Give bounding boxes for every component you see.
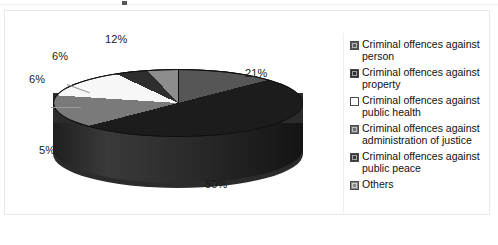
- legend-swatch-icon: [350, 69, 359, 78]
- legend-swatch-icon: [350, 181, 359, 190]
- legend-item-label: Criminal offences against public peace: [362, 151, 493, 174]
- legend-swatch-icon: [350, 97, 359, 106]
- pie-label-person: 21%: [245, 67, 267, 79]
- pie-label-public-health: 6%: [29, 73, 45, 85]
- legend-item-public-health: Criminal offences against public health: [350, 95, 493, 118]
- pie-label-public-peace: 6%: [52, 50, 68, 62]
- legend-item-label: Criminal offences against public health: [362, 95, 493, 118]
- leader-line-public-health: [51, 107, 81, 108]
- legend-swatch-icon: [350, 41, 359, 50]
- legend-item-public-peace: Criminal offences against public peace: [350, 151, 493, 174]
- legend-item-administration-of-justice: Criminal offences against administration…: [350, 123, 493, 146]
- legend-item-label: Criminal offences against administration…: [362, 123, 493, 146]
- pie-chart-figure: 12% 6% 6% 5% 50% 21% Criminal offences a…: [0, 0, 498, 245]
- legend-swatch-icon: [350, 125, 359, 134]
- pie-3d: [53, 69, 303, 179]
- chart-legend: Criminal offences against person Crimina…: [343, 33, 493, 213]
- legend-item-label: Criminal offences against property: [362, 67, 493, 90]
- pie-radius-divider: [178, 69, 179, 103]
- pie-label-others: 12%: [105, 33, 127, 45]
- legend-swatch-icon: [350, 153, 359, 162]
- legend-item-person: Criminal offences against person: [350, 39, 493, 62]
- scan-artifact-line: [0, 4, 498, 5]
- chart-frame: 12% 6% 6% 5% 50% 21% Criminal offences a…: [4, 10, 490, 215]
- pie-label-administration-of-justice: 5%: [39, 144, 55, 156]
- legend-item-label: Others: [362, 179, 394, 191]
- legend-item-others: Others: [350, 179, 493, 191]
- pie-plot-area: [15, 51, 335, 196]
- legend-item-label: Criminal offences against person: [362, 39, 493, 62]
- pie-label-property: 50%: [205, 178, 227, 190]
- scan-artifact-speck: [122, 1, 127, 5]
- legend-item-property: Criminal offences against property: [350, 67, 493, 90]
